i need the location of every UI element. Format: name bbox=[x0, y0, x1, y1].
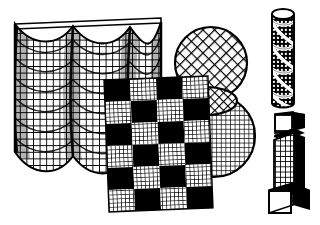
illustration-canvas: Mesh and screen fabric product forms Lin… bbox=[0, 0, 320, 225]
tube-top-opening bbox=[272, 9, 294, 19]
object-spiral-tube bbox=[270, 9, 298, 112]
object-checkerboard-panel bbox=[104, 76, 213, 212]
small-cube-front-face bbox=[275, 115, 292, 131]
object-mesh-column bbox=[269, 126, 310, 213]
checker-cells bbox=[104, 76, 213, 212]
mesh-products-figure bbox=[0, 0, 320, 225]
